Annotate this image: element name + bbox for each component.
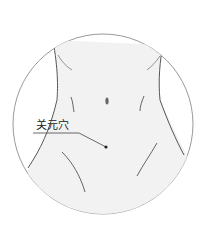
acupoint-label: 关元穴 (36, 120, 69, 132)
abdomen-diagram (0, 0, 207, 229)
acupoint-guanyuan (104, 145, 107, 148)
navel (105, 98, 108, 105)
